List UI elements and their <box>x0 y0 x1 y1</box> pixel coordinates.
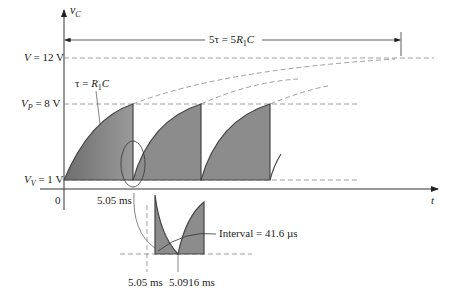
y-axis-label: vC <box>70 4 81 19</box>
first-discharge-time: 5.05 ms <box>97 195 132 206</box>
inset-end-time: 5.0916 ms <box>169 277 215 288</box>
level-vp-label: VP = 8 V <box>21 98 60 112</box>
tau-label: τ = R1C <box>75 78 109 92</box>
inset-charge <box>178 202 204 254</box>
origin-label: 0 <box>55 195 61 206</box>
ext-curve-2 <box>201 79 298 104</box>
inset-start-time: 5.05 ms <box>128 277 163 288</box>
x-axis-label: t <box>431 195 434 206</box>
charge-cycle-2 <box>133 104 201 180</box>
level-vv-label: VV = 1 V <box>24 174 63 188</box>
tau-pointer <box>96 91 100 124</box>
magnify-connector <box>134 193 155 248</box>
full-charge-curve <box>133 59 395 104</box>
charge-cycle-4-start <box>270 154 281 180</box>
interval-label: Interval = 41.6 µs <box>219 228 298 239</box>
charge-cycle-3 <box>201 104 270 180</box>
five-tau-label: 5τ = 5R1C <box>209 34 254 48</box>
ext-curve-3 <box>270 86 328 104</box>
level-12v-label: V = 12 V <box>24 52 64 63</box>
charge-cycle-1 <box>64 104 133 180</box>
